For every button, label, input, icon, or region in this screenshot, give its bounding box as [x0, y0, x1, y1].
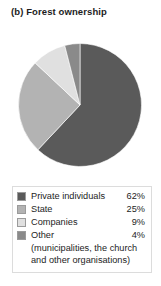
legend-item-label: Private individuals	[31, 190, 127, 203]
pie-chart-svg	[18, 43, 142, 167]
legend-item-value: 4%	[132, 229, 146, 242]
legend-note-line-2: and other organisations)	[31, 255, 146, 267]
legend-item-value: 9%	[132, 216, 146, 229]
pie-slice-group	[19, 44, 142, 167]
legend-note-line-1: (municipalities, the church	[31, 243, 146, 255]
legend-item: State25%	[17, 203, 146, 216]
legend-item: Companies9%	[17, 216, 146, 229]
legend: Private individuals62%State25%Companies9…	[12, 186, 152, 273]
legend-item-label: State	[31, 203, 127, 216]
legend-item-label: Other	[31, 229, 132, 242]
legend-rows: Private individuals62%State25%Companies9…	[17, 190, 146, 242]
legend-swatch-state	[17, 205, 26, 214]
legend-item: Other4%	[17, 229, 146, 242]
legend-item: Private individuals62%	[17, 190, 146, 203]
forest-ownership-figure: (b) Forest ownership Private individuals…	[0, 0, 161, 286]
legend-note: (municipalities, the church and other or…	[17, 243, 146, 266]
legend-item-value: 62%	[127, 190, 146, 203]
legend-swatch-companies	[17, 218, 26, 227]
pie-chart	[18, 43, 142, 167]
legend-swatch-private-individuals	[17, 192, 26, 201]
legend-swatch-other	[17, 231, 26, 240]
legend-item-label: Companies	[31, 216, 132, 229]
legend-item-value: 25%	[127, 203, 146, 216]
page-title: (b) Forest ownership	[11, 6, 107, 17]
